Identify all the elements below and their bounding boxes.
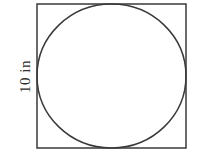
inscribed-circle — [37, 4, 186, 148]
diagram-canvas — [0, 0, 206, 153]
geometry-figure: 10 in — [0, 0, 206, 153]
